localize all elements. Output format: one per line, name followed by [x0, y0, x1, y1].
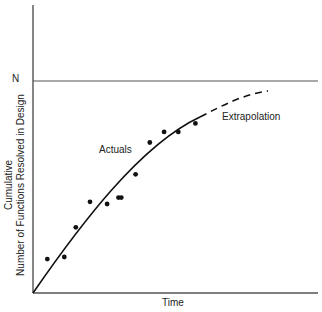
y-axis-label-line1: Cumulative: [3, 80, 15, 290]
data-point: [193, 121, 198, 126]
data-point: [119, 195, 124, 200]
x-axis-label: Time: [162, 297, 184, 308]
data-point: [45, 257, 50, 262]
data-point: [133, 172, 138, 177]
extrapolation-annotation: Extrapolation: [222, 111, 280, 122]
data-point: [88, 199, 93, 204]
chart-canvas: [0, 0, 322, 312]
data-point: [73, 225, 78, 230]
data-point: [147, 140, 152, 145]
data-point: [176, 130, 181, 135]
actuals-annotation: Actuals: [99, 144, 132, 155]
y-axis-label-line2: Number of Functions Resolved in Design: [15, 80, 27, 290]
data-point: [62, 255, 67, 260]
actuals-points: [45, 121, 198, 262]
data-point: [105, 202, 110, 207]
data-point: [162, 130, 167, 135]
y-axis-label: Cumulative Number of Functions Resolved …: [3, 80, 33, 290]
